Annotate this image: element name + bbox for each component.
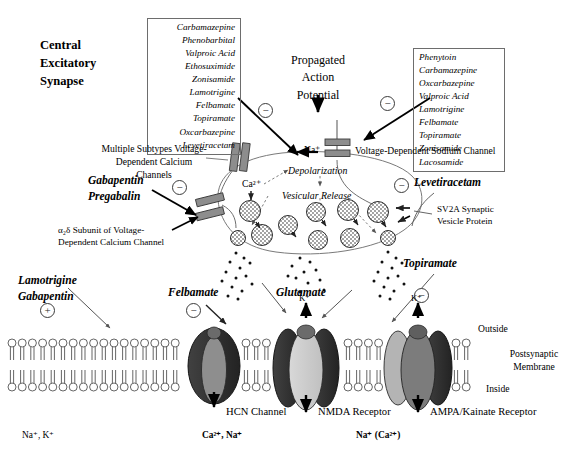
- sodium-list-minus-sign: −: [380, 96, 395, 111]
- synapse-diagram: Central Excitatory Synapse Propagated Ac…: [0, 0, 572, 455]
- vesicular-release-label: Vesicular Release: [282, 190, 351, 202]
- sodium-drug-item: Felbamate: [419, 116, 499, 129]
- calcium-drug-item: Oxcarbazepine: [153, 126, 235, 139]
- depolarization-label: Depolarization: [288, 165, 347, 177]
- propagated-action-potential-label: Propagated Action Potential: [268, 52, 368, 104]
- calcium-list-minus-sign: −: [258, 103, 273, 118]
- voltage-dependent-sodium-channel-icon: [325, 139, 350, 157]
- sodium-drug-item: Topiramate: [419, 129, 499, 142]
- gabapentin-minus-sign: −: [172, 180, 187, 195]
- calcium-drug-item: Lamotrigine: [153, 86, 235, 99]
- postsynaptic-membrane: [8, 339, 470, 391]
- calcium-drug-item: Ethosuximide: [153, 60, 235, 73]
- calcium-drug-item: Zonisamide: [153, 73, 235, 86]
- calcium-drug-item: Topiramate: [153, 112, 235, 125]
- k-ion-ampa: K⁺: [411, 293, 422, 303]
- sv2a-arrows: [396, 208, 410, 222]
- synaptic-vesicles: [231, 200, 396, 250]
- inside-label: Inside: [486, 383, 509, 394]
- felbamate-minus-sign: −: [186, 303, 201, 318]
- sodium-drug-item: Lamotrigine: [419, 103, 499, 116]
- ampa-receptor-name: AMPA/Kainate Receptor: [430, 406, 536, 419]
- hcn-channel-icon: [188, 327, 240, 404]
- vesicle-motion-arrows: [256, 219, 386, 237]
- calcium-channel-drug-list: CarbamazepinePhenobarbitalValproic AcidE…: [147, 18, 241, 155]
- nmda-receptor-icon: [273, 325, 339, 410]
- felbamate-label: Felbamate: [168, 286, 218, 300]
- levetiracetam-minus-sign: −: [394, 178, 409, 193]
- sv2a-label: SV2A Synaptic Vesicle Protein: [437, 203, 507, 228]
- sodium-drug-item: Valproic Acid: [419, 90, 499, 103]
- topiramate-label: Topiramate: [403, 257, 457, 271]
- nmda-receptor-ions: Ca²⁺, Na⁺: [202, 430, 242, 441]
- ampa-receptor-ions: Na⁺ (Ca²⁺): [356, 430, 400, 441]
- levetiracetam-label: Levetiracetam: [414, 176, 481, 190]
- hcn-channel-name: HCN Channel: [226, 406, 286, 419]
- outside-label: Outside: [478, 323, 508, 334]
- k-ion-nmda: K⁺: [299, 293, 310, 303]
- calcium-drug-item: Carbamazepine: [153, 21, 235, 34]
- na-ion-presynaptic: Na⁺: [304, 144, 320, 155]
- ampa-kainate-receptor-icon: [384, 325, 452, 410]
- sodium-drug-item: Phenytoin: [419, 51, 499, 64]
- hcn-plus-sign: +: [40, 303, 55, 318]
- hcn-channel-ions: Na⁺, K⁺: [22, 430, 54, 441]
- calcium-drug-item: Valproic Acid: [153, 47, 235, 60]
- page-title: Central Excitatory Synapse: [40, 36, 96, 90]
- drug-pointer-arrows: [68, 98, 434, 328]
- calcium-drug-item: Phenobarbital: [153, 34, 235, 47]
- sodium-drug-item: Lacosamide: [419, 156, 499, 169]
- nmda-receptor-name: NMDA Receptor: [318, 406, 391, 419]
- gabapentin-pregabalin-label: Gabapentin Pregabalin: [88, 172, 172, 204]
- lamotrigine-gabapentin-label: Lamotrigine Gabapentin: [18, 272, 114, 304]
- ca-ion-presynaptic: Ca²⁺: [242, 178, 261, 189]
- sodium-drug-item: Carbamazepine: [419, 64, 499, 77]
- sodium-drug-item: Oxcarbazepine: [419, 77, 499, 90]
- alpha2delta-subunit-label: α₂δ Subunit of Voltage- Dependent Calciu…: [58, 224, 176, 249]
- calcium-drug-item: Felbamate: [153, 99, 235, 112]
- postsynaptic-membrane-label: Postsynaptic Membrane: [498, 348, 570, 374]
- sodium-channel-label: Voltage-Dependent Sodium Channel: [355, 145, 496, 156]
- alpha2delta-subunit-icon: [195, 193, 224, 221]
